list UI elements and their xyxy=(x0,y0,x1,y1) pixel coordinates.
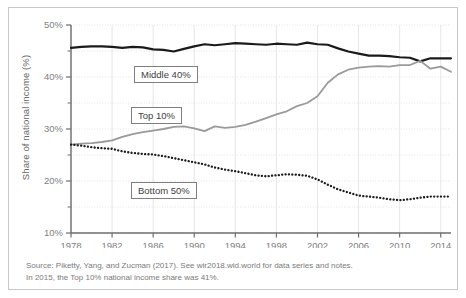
y-tick-label: 10% xyxy=(44,227,64,238)
source-note-line-2: In 2015, the Top 10% national income sha… xyxy=(26,272,446,284)
chart-frame: Share of national income (%) 50%40%30%20… xyxy=(8,7,458,290)
series-line-middle-40- xyxy=(71,43,451,62)
line-chart-svg: 50%40%30%20%10%1978198219861990199419982… xyxy=(9,8,459,248)
y-tick-label: 50% xyxy=(44,19,64,30)
plot-area: Share of national income (%) 50%40%30%20… xyxy=(9,8,459,248)
y-tick-label: 40% xyxy=(44,71,64,82)
x-tick-label: 1990 xyxy=(184,240,205,248)
series-line-bottom-50- xyxy=(71,145,451,201)
x-tick-label: 1978 xyxy=(60,240,81,248)
x-tick-label: 1998 xyxy=(266,240,287,248)
x-tick-label: 2014 xyxy=(430,240,451,248)
source-note-line-1: Source: Piketty, Yang, and Zucman (2017)… xyxy=(26,260,446,272)
x-tick-label: 1994 xyxy=(225,240,246,248)
x-tick-label: 1986 xyxy=(143,240,164,248)
x-tick-label: 1982 xyxy=(102,240,123,248)
chart-figure: Share of national income (%) 50%40%30%20… xyxy=(0,0,466,298)
x-tick-label: 2010 xyxy=(389,240,410,248)
x-tick-label: 2006 xyxy=(348,240,369,248)
source-note: Source: Piketty, Yang, and Zucman (2017)… xyxy=(26,260,446,283)
y-tick-label: 20% xyxy=(44,175,64,186)
legend-label-middle-40: Middle 40% xyxy=(134,66,198,83)
y-axis-title: Share of national income (%) xyxy=(20,33,31,203)
x-tick-label: 2002 xyxy=(307,240,328,248)
legend-label-top-10: Top 10% xyxy=(131,107,182,124)
legend-label-bottom-50: Bottom 50% xyxy=(131,182,197,199)
y-tick-label: 30% xyxy=(44,123,64,134)
